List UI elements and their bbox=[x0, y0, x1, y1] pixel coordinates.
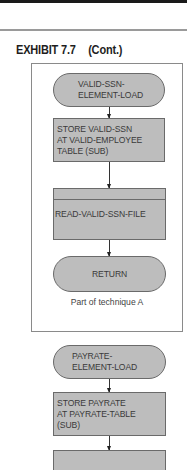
flow-arrow bbox=[109, 379, 110, 392]
terminal-label: VALID-SSN- ELEMENT-LOAD bbox=[78, 79, 143, 101]
exhibit-number: EXHIBIT 7.7 bbox=[16, 43, 76, 57]
exhibit-title: EXHIBIT 7.7(Cont.) bbox=[16, 43, 122, 57]
predefined-stripe bbox=[54, 199, 165, 200]
predefined-read-valid-ssn-file: READ-VALID-SSN-FILE bbox=[53, 188, 166, 240]
header-rule bbox=[0, 29, 187, 31]
process-store-payrate: STORE PAYRATE AT PAYRATE-TABLE (SUB) bbox=[53, 392, 166, 436]
flow-arrow bbox=[109, 162, 110, 188]
terminal-label: RETURN bbox=[54, 269, 165, 280]
start-terminal-valid-ssn: VALID-SSN- ELEMENT-LOAD bbox=[53, 73, 165, 107]
process-label: STORE VALID-SSN AT VALID-EMPLOYEE TABLE … bbox=[57, 124, 142, 157]
top-bar bbox=[0, 0, 187, 3]
exhibit-continued: (Cont.) bbox=[88, 43, 122, 57]
flow-arrow bbox=[109, 240, 110, 256]
start-terminal-payrate: PAYRATE- ELEMENT-LOAD bbox=[53, 345, 166, 379]
flow-arrow bbox=[109, 107, 110, 118]
flow-arrow bbox=[109, 436, 110, 450]
process-label: STORE PAYRATE AT PAYRATE-TABLE (SUB) bbox=[57, 398, 136, 431]
panel-caption: Part of technique A bbox=[31, 297, 183, 307]
predefined-label: READ-VALID-SSN-FILE bbox=[55, 209, 146, 220]
next-step-box bbox=[53, 450, 166, 470]
process-store-valid-ssn: STORE VALID-SSN AT VALID-EMPLOYEE TABLE … bbox=[53, 118, 165, 162]
terminal-label: PAYRATE- ELEMENT-LOAD bbox=[72, 351, 137, 373]
end-terminal-return: RETURN bbox=[53, 256, 166, 292]
